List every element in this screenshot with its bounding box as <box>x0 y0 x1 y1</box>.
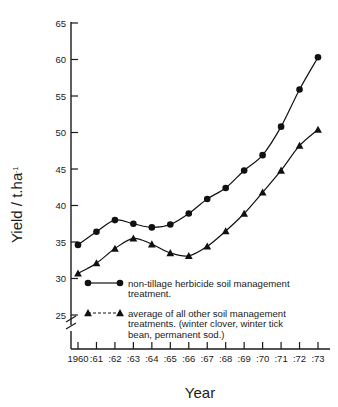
data-point-circle <box>112 217 119 224</box>
chart-legend: non-tillage herbicide soil managementtre… <box>84 278 290 340</box>
x-tick-label-66: :66 <box>182 353 195 364</box>
data-point-triangle <box>314 126 322 133</box>
y-tick-label-35: 35 <box>55 237 66 248</box>
x-tick-label-1960: 1960 <box>67 353 88 364</box>
x-tick-label-67: :67 <box>201 353 214 364</box>
legend-entry-1: non-tillage herbicide soil managementtre… <box>85 278 290 300</box>
series-line <box>78 57 318 245</box>
data-point-circle <box>130 220 137 227</box>
data-point-circle <box>185 210 192 217</box>
data-point-circle <box>315 54 322 61</box>
legend-entry-2: average of all other soil managementtrea… <box>84 308 286 340</box>
series-line <box>78 130 318 274</box>
data-point-circle <box>296 86 303 93</box>
data-point-circle <box>167 221 174 228</box>
y-tick-label-55: 55 <box>55 91 66 102</box>
data-point-triangle <box>203 242 211 249</box>
y-tick-label-40: 40 <box>55 200 66 211</box>
chart-container: 253035404550556065 1960:61:62:63:64:65:6… <box>0 0 338 407</box>
data-point-circle <box>149 224 156 231</box>
data-point-circle <box>259 152 266 159</box>
data-point-circle <box>75 242 82 249</box>
data-point-triangle <box>111 245 119 252</box>
x-axis-title: Year <box>185 384 215 401</box>
data-point-circle <box>85 280 92 287</box>
x-tick-label-62: :62 <box>108 353 121 364</box>
x-axis-ticks: 1960:61:62:63:64:65:66:67:68:69:70:71:72… <box>67 342 324 364</box>
x-tick-label-65: :65 <box>164 353 177 364</box>
data-point-circle <box>93 228 100 235</box>
x-tick-label-69: :69 <box>238 353 251 364</box>
legend-label-line: bean, permanent sod.) <box>128 329 225 340</box>
data-point-circle <box>241 167 248 174</box>
legend-label-line: average of all other soil management <box>128 308 286 319</box>
data-point-triangle <box>148 240 156 247</box>
data-point-circle <box>117 280 124 287</box>
yield-vs-year-line-chart: 253035404550556065 1960:61:62:63:64:65:6… <box>0 0 338 407</box>
y-tick-label-60: 60 <box>55 54 66 65</box>
x-tick-label-64: :64 <box>145 353 158 364</box>
data-point-triangle <box>74 269 82 276</box>
data-point-circle <box>222 185 229 192</box>
y-tick-label-45: 45 <box>55 164 66 175</box>
data-point-circle <box>204 196 211 203</box>
series-average-other <box>74 126 322 277</box>
x-tick-label-68: :68 <box>219 353 232 364</box>
x-tick-label-61: :61 <box>90 353 103 364</box>
x-tick-label-70: :70 <box>256 353 269 364</box>
y-tick-label-50: 50 <box>55 127 66 138</box>
x-tick-label-71: :71 <box>274 353 287 364</box>
data-point-circle <box>278 123 285 130</box>
y-tick-label-25: 25 <box>55 310 66 321</box>
y-axis-ticks: 253035404550556065 <box>55 18 78 321</box>
series-non-tillage <box>75 54 322 248</box>
legend-label-line: treatments. (winter clover, winter tick <box>128 318 283 329</box>
x-tick-label-63: :63 <box>127 353 140 364</box>
data-point-triangle <box>116 309 124 316</box>
x-tick-label-73: :73 <box>311 353 324 364</box>
y-tick-label-30: 30 <box>55 273 66 284</box>
y-axis-title: Yield / t.ha-1 <box>8 167 25 244</box>
data-point-triangle <box>93 259 101 266</box>
legend-label-line: treatment. <box>128 288 171 299</box>
data-series-group <box>74 54 322 277</box>
x-tick-label-72: :72 <box>293 353 306 364</box>
data-point-triangle <box>166 249 174 256</box>
y-tick-label-65: 65 <box>55 18 66 29</box>
legend-label-line: non-tillage herbicide soil management <box>128 278 290 289</box>
